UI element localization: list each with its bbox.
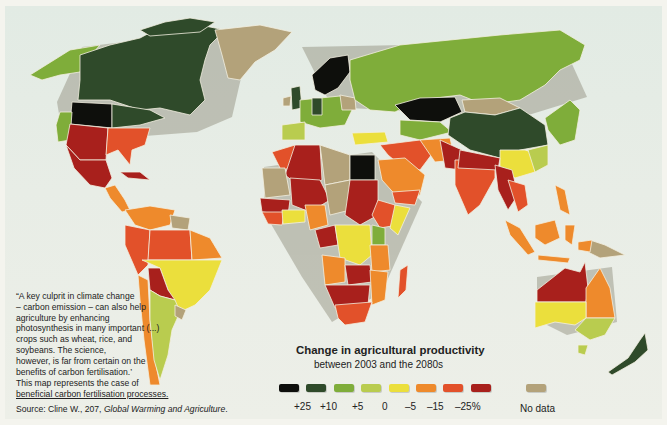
region-us-southeast bbox=[106, 128, 150, 165]
region-mozambique bbox=[370, 270, 388, 305]
source-suffix: . bbox=[225, 404, 227, 414]
region-ireland bbox=[283, 96, 291, 106]
legend-label-m25: –25% bbox=[455, 401, 481, 412]
quote-line: “A key culprit in climate change bbox=[16, 291, 176, 302]
region-papua bbox=[588, 240, 625, 258]
region-egypt bbox=[350, 155, 375, 180]
region-brazil-northeast bbox=[190, 230, 222, 260]
source-title: Global Warming and Agriculture bbox=[104, 404, 225, 414]
legend-swatch-p25 bbox=[279, 384, 299, 392]
region-us-northwest bbox=[70, 102, 112, 128]
legend-swatch-p5 bbox=[334, 384, 354, 392]
region-turkey bbox=[352, 132, 388, 145]
quote-line: soybeans. The science, bbox=[16, 345, 176, 356]
quote-line: agriculture by enhancing bbox=[16, 313, 176, 324]
source-citation: Source: Cline W., 207, Global Warming an… bbox=[16, 404, 228, 414]
legend-swatch-p10 bbox=[306, 384, 326, 392]
legend-swatch-m25-dark bbox=[471, 384, 491, 392]
legend-swatch-m25 bbox=[443, 384, 463, 392]
region-madagascar bbox=[398, 265, 408, 298]
quote-line: however, is far from certain on the bbox=[16, 356, 176, 367]
region-java bbox=[538, 255, 570, 263]
region-central-america bbox=[105, 185, 130, 212]
quote-line: crops such as wheat, rice, and bbox=[16, 334, 176, 345]
legend-label-p5: +5 bbox=[352, 401, 363, 412]
region-angola bbox=[322, 255, 345, 285]
region-indonesia-sumatra bbox=[505, 220, 535, 255]
legend-subtitle: between 2003 and the 2080s bbox=[314, 359, 443, 370]
region-papua-west bbox=[578, 240, 592, 252]
region-guianas bbox=[170, 215, 190, 230]
region-gulf-guinea bbox=[282, 210, 305, 224]
region-philippines bbox=[555, 185, 570, 215]
legend-swatch-nodata bbox=[526, 384, 546, 392]
region-south-africa bbox=[335, 302, 372, 325]
region-cuba bbox=[120, 172, 150, 180]
legend-label-0: 0 bbox=[382, 401, 388, 412]
legend-label-m5: –5 bbox=[405, 401, 416, 412]
legend-label-m15: –15 bbox=[427, 401, 444, 412]
legend-label-p10: +10 bbox=[320, 401, 337, 412]
region-guinea bbox=[262, 212, 285, 225]
legend-swatch-m15 bbox=[416, 384, 436, 392]
region-yemen bbox=[392, 190, 420, 205]
region-tasmania bbox=[578, 345, 588, 355]
region-tanzania bbox=[370, 245, 390, 272]
region-iberia bbox=[282, 122, 305, 140]
map-figure: “A key culprit in climate change – carbo… bbox=[0, 0, 667, 425]
quote-line: – carbon emission – can also help bbox=[16, 302, 176, 313]
region-central-asia bbox=[400, 120, 452, 140]
note-line: This map represents the case of bbox=[16, 378, 216, 389]
legend-swatch-0 bbox=[361, 384, 381, 392]
legend-swatch-m5 bbox=[389, 384, 409, 392]
region-kenya bbox=[372, 225, 385, 245]
note-line-underlined: beneficial carbon fertilisation processe… bbox=[16, 389, 216, 400]
region-west-sahara bbox=[262, 168, 290, 198]
region-benelux bbox=[312, 98, 322, 115]
region-libya bbox=[320, 145, 350, 185]
region-peru-ecuador bbox=[125, 225, 150, 275]
legend-label-nodata: No data bbox=[520, 403, 555, 414]
legend-label-p25: +25 bbox=[294, 401, 311, 412]
region-brazil-north bbox=[148, 230, 192, 260]
region-borneo bbox=[535, 220, 560, 245]
region-sulawesi bbox=[565, 225, 575, 245]
region-greenland bbox=[215, 25, 292, 80]
source-prefix: Source: Cline W., 207, bbox=[16, 404, 104, 414]
quote-line: photosynthesis in many important (...) bbox=[16, 323, 176, 334]
quote-line: benefits of carbon fertilisation.’ bbox=[16, 367, 176, 378]
region-zambia bbox=[345, 265, 372, 285]
legend-title: Change in agricultural productivity bbox=[296, 344, 485, 356]
region-new-zealand bbox=[608, 333, 648, 375]
map-note: This map represents the case of benefici… bbox=[16, 378, 216, 400]
quote-text: “A key culprit in climate change – carbo… bbox=[16, 291, 176, 377]
